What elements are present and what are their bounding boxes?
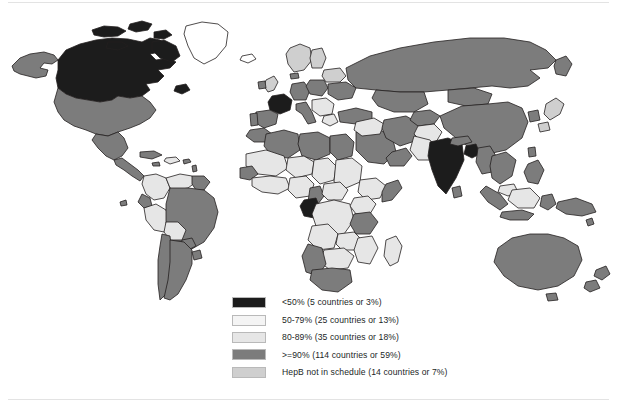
region-japan [544, 98, 564, 120]
region-canada-arctic-1 [92, 26, 126, 37]
legend-item-under-50[interactable]: <50% (5 countries or 3%) [232, 294, 562, 311]
region-new-zealand-south [584, 280, 600, 292]
region-lesser-antilles [192, 165, 197, 172]
region-india [428, 138, 464, 194]
region-greenland [184, 22, 228, 64]
region-belarus-baltics [322, 68, 346, 82]
region-ukraine [328, 82, 356, 100]
region-canada-arctic-2 [128, 21, 152, 32]
legend-label-80-89: 80-89% (35 countries or 18%) [282, 333, 399, 342]
region-niger [286, 156, 314, 178]
region-poland [306, 80, 328, 96]
region-galapagos [120, 200, 127, 206]
legend-item-90-plus[interactable]: >=90% (114 countries or 59%) [232, 346, 562, 363]
region-newfoundland [174, 84, 190, 94]
region-puerto-rico [183, 159, 191, 164]
region-uruguay [192, 250, 202, 260]
region-mozambique [354, 236, 378, 264]
map-legend: <50% (5 countries or 3%) 50-79% (25 coun… [232, 294, 562, 381]
legend-label-50-79: 50-79% (25 countries or 13%) [282, 316, 399, 325]
region-kazakhstan [372, 90, 428, 112]
figure-bottom-rule [8, 399, 609, 400]
figure-top-rule [8, 2, 609, 3]
region-norway-sweden [286, 44, 312, 72]
legend-item-50-79[interactable]: 50-79% (25 countries or 13%) [232, 311, 562, 328]
region-philippines [524, 160, 544, 184]
region-chad [312, 158, 336, 184]
region-west-africa-coast [252, 176, 290, 194]
region-tanzania [350, 212, 378, 234]
choropleth-map [0, 8, 617, 308]
region-sulawesi [540, 194, 556, 210]
region-japan-south [538, 122, 550, 132]
region-iceland [240, 54, 256, 63]
region-baffin-island [152, 40, 180, 62]
region-new-guinea [556, 198, 596, 216]
region-thailand-indochina [490, 152, 516, 184]
region-finland [310, 48, 326, 68]
legend-label-not-in-schedule: HepB not in schedule (14 countries or 7%… [282, 368, 448, 377]
region-taiwan [528, 147, 536, 157]
region-central-america [114, 158, 144, 181]
region-korea [528, 110, 540, 122]
region-denmark [290, 73, 299, 79]
region-hispaniola [164, 157, 180, 164]
region-mexico [92, 132, 128, 160]
legend-swatch-under-50 [232, 297, 266, 308]
legend-item-80-89[interactable]: 80-89% (35 countries or 18%) [232, 329, 562, 346]
region-russia [346, 38, 556, 92]
region-egypt [330, 134, 354, 160]
region-somalia [382, 180, 402, 202]
legend-label-under-50: <50% (5 countries or 3%) [282, 298, 382, 307]
region-canada-arctic-3 [154, 30, 172, 39]
region-pacific-islands [586, 218, 594, 226]
region-central-asia [410, 110, 440, 126]
region-greece [322, 114, 338, 126]
legend-item-not-in-schedule[interactable]: HepB not in schedule (14 countries or 7%… [232, 364, 562, 381]
region-new-zealand-north [594, 266, 610, 280]
region-jamaica [152, 162, 160, 166]
region-australia [494, 234, 582, 290]
region-south-africa [310, 268, 352, 292]
region-cuba [140, 151, 162, 159]
world-map-figure: <50% (5 countries or 3%) 50-79% (25 coun… [0, 0, 617, 410]
legend-label-90-plus: >=90% (114 countries or 59%) [282, 351, 401, 360]
region-mongolia [448, 88, 492, 106]
region-sri-lanka [452, 186, 462, 198]
legend-swatch-50-79 [232, 315, 266, 326]
legend-swatch-80-89 [232, 332, 266, 343]
region-guyanas [192, 176, 210, 190]
region-madagascar [384, 236, 402, 266]
region-portugal [250, 113, 258, 126]
region-united-kingdom [264, 76, 278, 92]
region-borneo [508, 188, 540, 208]
legend-swatch-90-plus [232, 349, 266, 360]
region-ireland [258, 81, 266, 89]
region-java [500, 210, 534, 220]
region-balkans [312, 98, 334, 116]
legend-swatch-not-in-schedule [232, 367, 266, 378]
region-alaska [12, 52, 58, 78]
region-kamchatka [554, 56, 572, 76]
